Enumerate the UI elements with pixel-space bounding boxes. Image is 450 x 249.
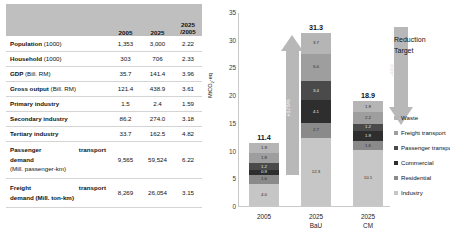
cell-value: 438.9 [141,81,174,96]
legend-label: Waste [401,114,418,121]
cell-value: 4.82 [174,126,202,141]
segment-value: 1.9 [353,134,383,138]
cell-value: 1.59 [174,96,202,111]
cell-value: 3.61 [174,81,202,96]
table-header-ratio-line2: /2005 [174,28,202,36]
bar-segment: 1.9 [353,101,383,112]
bar-segment: 3.7 [301,33,331,54]
cell-value: 121.4 [110,81,141,96]
bar-segment: 1.8 [249,153,279,163]
legend-label: Commercial [401,159,434,166]
bar-segment: 1.2 [249,163,279,170]
bar-total-label: 18.9 [347,91,389,100]
bar-segment: 10.1 [353,150,383,206]
y-axis-tick: 25 [218,64,236,71]
legend-swatch [394,176,398,180]
legend-item[interactable]: Commercial [394,159,450,166]
legend-item[interactable]: Residential [394,174,450,181]
cell-value: 6.22 [174,141,202,178]
legend-label: Freight transport [401,129,446,136]
cell-value: 9,565 [110,141,141,178]
cell-value: 3.18 [174,111,202,126]
segment-value: 2.7 [301,128,331,132]
legend-swatch [394,161,398,165]
cell-value: 26,054 [141,178,174,207]
row-label-population: Population (1000) [6,36,110,51]
increase-arrow-icon: +175% [281,35,303,175]
legend-label: Residential [401,174,431,181]
legend-swatch [394,116,398,120]
y-axis-tick: 30 [218,37,236,44]
segment-value: 1.6 [353,143,383,147]
table-header-blank [6,4,110,36]
segment-value: 2.2 [353,116,383,120]
row-label-secondary-industry: Secondary industry [6,111,110,126]
y-axis-tick: 35 [218,9,236,16]
stacked-bar[interactable]: 1.92.21.21.91.610.1 [353,101,383,206]
legend-label: Passenger transport [401,144,450,151]
bar-segment: 2.7 [301,123,331,138]
increase-arrow-label: +175% [285,99,291,117]
cell-value: 35.7 [110,66,141,81]
cell-value: 3,000 [141,36,174,51]
bar-segment: 1.2 [353,124,383,131]
x-axis-label: 2025CM [345,212,391,231]
cell-value: 303 [110,51,141,66]
y-axis-tick: 20 [218,92,236,99]
reduction-arrow-label: -40% [389,63,395,76]
row-label-gdp: GDP (Bill. RM) [6,66,110,81]
table-row: Gross output (Bill. RM) 121.4 438.9 3.61 [6,81,202,96]
x-axis-label: 2025BaU [293,212,339,231]
emissions-chart-panel: MtCO2-eq 05101520253035 1.91.81.20.91.64… [206,2,450,248]
segment-value: 4.0 [249,193,279,197]
table-row: Primary industry 1.5 2.4 1.59 [6,96,202,111]
legend-item[interactable]: Passenger transport [394,144,450,151]
cell-value: 86.2 [110,111,141,126]
table-row-passenger-demand: Passengertransport demand (Mill. passeng… [6,141,202,178]
cell-value: 162.5 [141,126,174,141]
row-label-tertiary-industry: Tertiary industry [6,126,110,141]
segment-value: 1.6 [249,177,279,181]
stacked-bar[interactable]: 1.91.81.20.91.64.0 [249,143,279,206]
table-row: Population (1000) 1,353 3,000 2.22 [6,36,202,51]
bar-segment: 1.6 [249,175,279,184]
cell-value: 706 [141,51,174,66]
table-row: Household (1000) 303 706 2.33 [6,51,202,66]
bar-segment: 1.9 [249,143,279,154]
table-header-2025: 2025 [141,4,174,36]
cell-value: 141.4 [141,66,174,81]
cell-value: 2.33 [174,51,202,66]
row-label-freight-demand: Freighttransport demand (Mill. ton-km) [6,178,110,207]
bar-segment: 5.0 [301,54,331,82]
y-axis-ticks: 05101520253035 [210,2,236,248]
bar-segment: 4.0 [249,184,279,206]
table-row: GDP (Bill. RM) 35.7 141.4 3.96 [6,66,202,81]
x-axis-label: 2005 [241,212,287,221]
legend-item[interactable]: Industry [394,189,450,196]
table-row: Tertiary industry 33.7 162.5 4.82 [6,126,202,141]
table-header-row: 2005 2025 2025 /2005 [6,4,202,36]
legend-swatch [394,191,398,195]
y-axis-tick: 15 [218,120,236,127]
bar-segment: 1.6 [353,141,383,150]
table-body: Population (1000) 1,353 3,000 2.22 House… [6,36,202,207]
cell-value: 59,524 [141,141,174,178]
y-axis-tick: 5 [218,175,236,182]
segment-value: 12.3 [301,170,331,174]
cell-value: 3.15 [174,178,202,207]
bar-segment: 4.1 [301,100,331,123]
row-label-passenger-demand: Passengertransport demand (Mill. passeng… [6,141,110,178]
cell-value: 3.96 [174,66,202,81]
table-row-freight-demand: Freighttransport demand (Mill. ton-km) 8… [6,178,202,207]
table-header-2005: 2005 [110,4,141,36]
bar-segment: 3.4 [301,81,331,100]
stacked-bar[interactable]: 3.75.03.44.12.712.3 [301,33,331,206]
segment-value: 1.8 [249,156,279,160]
legend-swatch [394,131,398,135]
row-label-primary-industry: Primary industry [6,96,110,111]
cell-value: 2.22 [174,36,202,51]
statistics-table-panel: 2005 2025 2025 /2005 Population (1000) 1… [6,4,202,246]
legend-item[interactable]: Waste [394,114,450,121]
legend-item[interactable]: Freight transport [394,129,450,136]
chart-legend: WasteFreight transportPassenger transpor… [394,114,450,205]
